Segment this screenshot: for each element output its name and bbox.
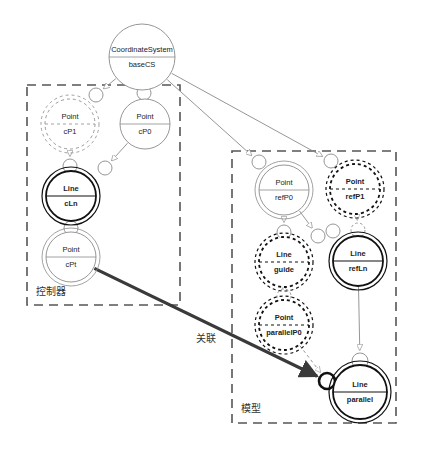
socket-s-refLn [351, 223, 365, 237]
socket-s-refP0 [252, 155, 266, 169]
socket-s-refLn-side [326, 224, 340, 238]
edge-label-e-assoc: 关联 [196, 330, 216, 345]
socket-s-cLn-b [98, 161, 112, 175]
package-label-controller: 控制器 [36, 283, 66, 298]
package-label-model: 模型 [241, 400, 261, 415]
node-layer [41, 24, 391, 423]
edge-e-baseCS-refP1 [172, 73, 322, 156]
edge-e-baseCS-cP1 [104, 79, 116, 89]
edge-e-refLn-parallel [359, 287, 360, 350]
socket-s-cP1 [89, 88, 103, 102]
socket-s-refP1 [324, 154, 338, 168]
diagram-graphics [0, 0, 427, 466]
diagram-canvas: 控制器模型关联CoordinateSystembaseCSPointcP1Poi… [0, 0, 427, 466]
edge-e-cP0-cLn [112, 143, 128, 160]
socket-s-guide-b [311, 229, 325, 243]
socket-s-assoc [319, 373, 335, 389]
